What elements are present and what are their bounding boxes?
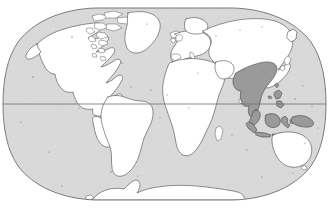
landmass-new-zealand-south (316, 159, 321, 164)
landmass-new-zealand-north (320, 151, 325, 156)
highlight-borneo (265, 114, 280, 128)
world-map-svg (0, 0, 329, 220)
map-caption (0, 208, 329, 220)
world-map-figure (0, 0, 329, 220)
